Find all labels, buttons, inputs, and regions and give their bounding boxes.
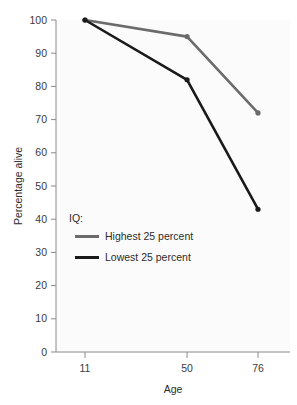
y-axis-ticks: 0102030405060708090100	[29, 14, 56, 358]
y-tick-label: 10	[35, 312, 47, 324]
x-tick-label: 50	[181, 362, 193, 374]
data-point-marker	[184, 34, 189, 39]
data-point-marker	[82, 17, 87, 22]
y-tick-label: 0	[41, 346, 47, 358]
x-tick-label: 76	[252, 362, 264, 374]
y-tick-label: 100	[29, 14, 47, 26]
y-tick-label: 20	[35, 279, 47, 291]
legend-label: Lowest 25 percent	[105, 251, 191, 263]
chart-container: 0102030405060708090100 115076 Percentage…	[0, 0, 297, 405]
y-tick-label: 90	[35, 47, 47, 59]
x-tick-label: 11	[80, 362, 91, 374]
data-point-marker	[255, 207, 260, 212]
plot-area-background	[56, 20, 290, 352]
y-tick-label: 50	[35, 180, 47, 192]
legend-title: IQ:	[69, 212, 83, 224]
x-axis-ticks: 115076	[80, 352, 264, 374]
y-tick-label: 70	[35, 113, 47, 125]
line-chart: 0102030405060708090100 115076 Percentage…	[0, 0, 297, 405]
legend-label: Highest 25 percent	[105, 230, 193, 242]
y-tick-label: 60	[35, 146, 47, 158]
x-axis-title: Age	[164, 383, 183, 395]
y-tick-label: 80	[35, 80, 47, 92]
data-point-marker	[255, 110, 260, 115]
y-axis-title: Percentage alive	[12, 147, 24, 225]
y-tick-label: 30	[35, 246, 47, 258]
data-point-marker	[184, 77, 189, 82]
y-tick-label: 40	[35, 213, 47, 225]
